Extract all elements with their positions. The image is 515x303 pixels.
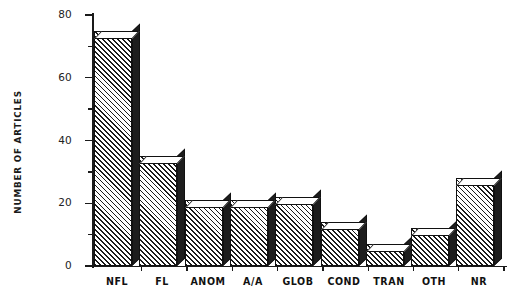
bar-side-face [494, 171, 502, 266]
bar-chart: NUMBER OF ARTICLES 020406080 NFLFLANOMA/… [0, 0, 515, 303]
y-axis-tick-label: 60 [20, 71, 72, 83]
y-axis-tick-major [85, 203, 92, 204]
x-axis-tick [458, 266, 459, 271]
bar [411, 220, 457, 266]
x-axis-tick [186, 266, 187, 271]
bar-top-face [275, 197, 320, 205]
bar [321, 214, 367, 266]
bar-top-face [366, 244, 411, 252]
bar-top-face [321, 222, 366, 230]
bar [275, 189, 321, 266]
y-axis-tick-label: 0 [20, 259, 72, 271]
bar-top-face [411, 228, 456, 236]
bar-front-face [185, 200, 223, 266]
bar-top-face [230, 200, 275, 208]
y-axis-tick-minor [88, 46, 93, 47]
y-axis-tick-major [85, 77, 92, 78]
bar [94, 23, 140, 266]
bar-top-face [139, 156, 184, 164]
bar-front-face [139, 156, 177, 266]
x-axis-tick [141, 266, 142, 271]
y-axis-tick-major [85, 140, 92, 141]
y-axis-tick-label: 40 [20, 134, 72, 146]
bar-front-face [456, 178, 494, 266]
x-axis-tick [413, 266, 414, 271]
x-axis-tick [368, 266, 369, 271]
bar [456, 170, 502, 266]
x-axis-tick [277, 266, 278, 271]
y-axis-title: NUMBER OF ARTICLES [0, 0, 34, 303]
bar-front-face [94, 31, 132, 266]
y-axis-tick-minor [88, 234, 93, 235]
bar [230, 192, 276, 266]
x-axis-tick-label: NR [452, 276, 507, 287]
x-axis-tick [503, 266, 504, 271]
x-axis-tick [322, 266, 323, 271]
bar [366, 236, 412, 266]
y-axis-tick-minor [88, 171, 93, 172]
y-axis-title-label: NUMBER OF ARTICLES [12, 90, 23, 213]
y-axis-tick-minor [88, 108, 93, 109]
y-axis-tick-major [85, 14, 92, 15]
x-axis-tick [232, 266, 233, 271]
bar [139, 148, 185, 266]
bar [185, 192, 231, 266]
bar-front-face [230, 200, 268, 266]
y-axis-tick-major [85, 265, 92, 266]
bar-front-face [275, 197, 313, 266]
y-axis-tick-label: 80 [20, 8, 72, 20]
y-axis-tick-label: 20 [20, 196, 72, 208]
bar-top-face [185, 200, 230, 208]
bar-top-face [94, 31, 139, 39]
